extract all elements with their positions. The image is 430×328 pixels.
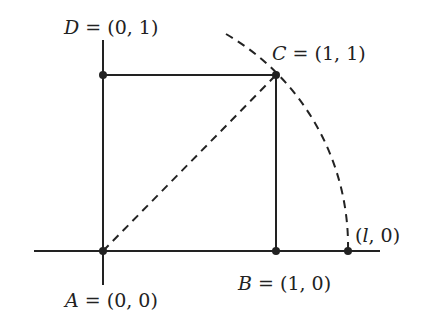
point-d bbox=[99, 71, 107, 79]
diagonal-ac bbox=[103, 75, 276, 251]
label-c: C = (1, 1) bbox=[272, 44, 366, 63]
label-a: A = (0, 0) bbox=[65, 291, 158, 310]
point-a bbox=[99, 247, 107, 255]
point-c bbox=[272, 71, 280, 79]
arc-dashed bbox=[226, 34, 348, 251]
label-b: B = (1, 0) bbox=[238, 274, 331, 293]
label-l: (l, 0) bbox=[355, 226, 400, 245]
label-d: D = (0, 1) bbox=[64, 18, 158, 37]
point-l bbox=[344, 247, 352, 255]
point-b bbox=[272, 247, 280, 255]
